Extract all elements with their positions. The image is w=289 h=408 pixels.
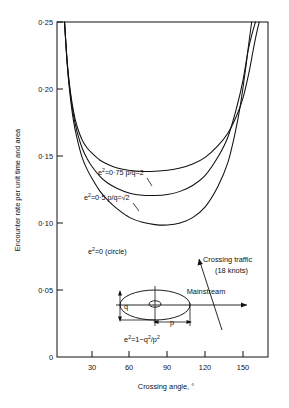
x-tick-label: 120: [199, 363, 211, 372]
x-tick-label: 90: [163, 363, 171, 372]
curve-series-1: [65, 22, 256, 196]
encounter-rate-chart: 0·25 0·20 0·15 0·10 0·05 0 30 60 90 120 …: [0, 0, 289, 408]
y-tick-label: 0: [49, 353, 53, 362]
y-tick-label: 0·15: [38, 152, 53, 161]
q-label: q: [124, 302, 128, 311]
ellipse-eccentricity-formula: e2=1−q2/p2: [124, 334, 160, 344]
x-axis-title: Crossing angle, °: [138, 382, 194, 391]
x-axis-tick-labels: 30 60 90 120 150: [88, 363, 249, 372]
y-tick-label: 0·25: [38, 18, 53, 27]
y-axis-tick-labels: 0·25 0·20 0·15 0·10 0·05 0: [38, 18, 53, 362]
y-tick-label: 0·20: [38, 85, 53, 94]
mainstream-label: Mainstream: [187, 287, 226, 296]
crossing-traffic-label-line2: (18 knots): [215, 266, 248, 275]
leader-line-e2-075: [147, 178, 152, 186]
curve-series-0: [65, 22, 260, 171]
y-tick-label: 0·05: [38, 286, 53, 295]
curve-label-e2-05: e2=0·5 p/q=√2: [84, 192, 130, 202]
plot-frame: [57, 22, 268, 357]
figure-container: 0·25 0·20 0·15 0·10 0·05 0 30 60 90 120 …: [0, 0, 289, 408]
mainstream-arrow: [116, 303, 247, 308]
x-axis-ticks: [92, 351, 243, 357]
inset-diagram: Mainstream Crossing traffic (18 knots) q: [116, 255, 252, 344]
y-axis-ticks: [57, 22, 63, 290]
crossing-traffic-label-line1: Crossing traffic: [203, 255, 252, 264]
x-tick-label: 150: [237, 363, 249, 372]
p-label: p: [170, 318, 174, 327]
curve-label-e2-075: e2=0·75 p/q=2: [98, 167, 144, 177]
curve-annotations: e2=0·75 p/q=2 e2=0·5 p/q=√2 e2=0 (circle…: [84, 167, 152, 256]
curve-label-e2-0: e2=0 (circle): [88, 246, 127, 256]
x-tick-label: 60: [125, 363, 133, 372]
y-tick-label: 0·10: [38, 219, 53, 228]
leader-line-e2-05: [133, 203, 139, 211]
y-axis-title: Encounter rate per unit time and area: [13, 128, 22, 251]
x-tick-label: 30: [88, 363, 96, 372]
